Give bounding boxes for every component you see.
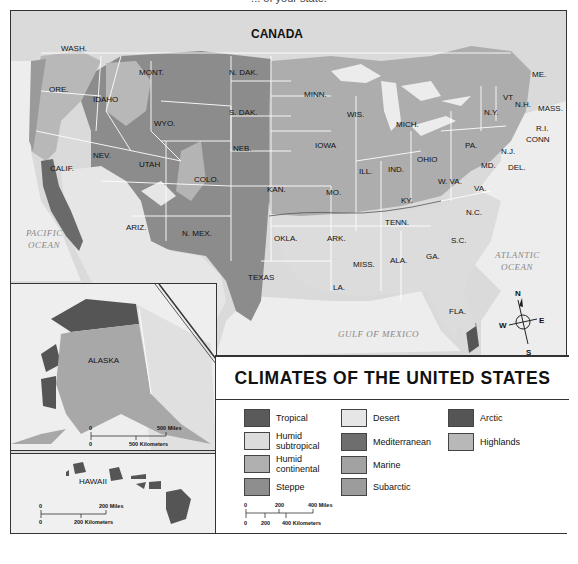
svg-text:MD.: MD. xyxy=(481,161,496,170)
gulf-of-mexico-label: GULF OF MEXICO xyxy=(338,329,419,339)
legend-item-desert: Desert xyxy=(341,409,400,427)
svg-text:0: 0 xyxy=(89,425,92,431)
legend-swatch xyxy=(341,478,367,496)
svg-text:OCEAN: OCEAN xyxy=(28,240,60,250)
svg-text:S. DAK.: S. DAK. xyxy=(229,108,257,117)
svg-text:200: 200 xyxy=(261,520,270,526)
svg-text:MICH.: MICH. xyxy=(396,120,419,129)
legend-swatch xyxy=(448,433,474,451)
svg-text:CONN: CONN xyxy=(526,135,550,144)
hawaii-inset: HAWAII 0 200 Miles 0 200 Kilometers xyxy=(11,453,217,534)
svg-text:N.H.: N.H. xyxy=(515,100,531,109)
svg-text:0: 0 xyxy=(244,502,247,508)
svg-text:400 Kilometers: 400 Kilometers xyxy=(282,520,321,526)
svg-text:W: W xyxy=(499,321,507,330)
svg-text:400 Miles: 400 Miles xyxy=(308,502,332,508)
legend-item-steppe: Steppe xyxy=(244,478,305,496)
svg-text:MISS.: MISS. xyxy=(353,260,375,269)
svg-text:KAN.: KAN. xyxy=(267,185,286,194)
svg-text:R.I.: R.I. xyxy=(536,124,548,133)
svg-text:CALIF.: CALIF. xyxy=(50,164,74,173)
legend-swatch xyxy=(244,409,270,427)
svg-text:OHIO: OHIO xyxy=(417,155,437,164)
svg-text:ALA.: ALA. xyxy=(390,256,407,265)
svg-text:PA.: PA. xyxy=(465,141,477,150)
svg-text:N.Y.: N.Y. xyxy=(484,108,499,117)
svg-text:KY.: KY. xyxy=(401,196,413,205)
svg-text:MO.: MO. xyxy=(326,188,341,197)
svg-text:200 Kilometers: 200 Kilometers xyxy=(74,519,113,525)
svg-text:OCEAN: OCEAN xyxy=(501,262,533,272)
svg-text:TENN.: TENN. xyxy=(385,218,409,227)
svg-text:N.J.: N.J. xyxy=(501,147,515,156)
svg-text:ARK.: ARK. xyxy=(327,234,346,243)
svg-text:OKLA.: OKLA. xyxy=(274,234,298,243)
legend-swatch xyxy=(341,456,367,474)
map-title: CLIMATES OF THE UNITED STATES xyxy=(216,357,569,400)
atlantic-ocean-label: ATLANTIC xyxy=(494,250,540,260)
legend-item-highlands: Highlands xyxy=(448,433,520,451)
svg-text:GA.: GA. xyxy=(426,252,440,261)
legend-item-mediterranean: Mediterranean xyxy=(341,433,431,451)
svg-text:FLA.: FLA. xyxy=(449,307,466,316)
pacific-ocean-label: PACIFIC xyxy=(25,228,63,238)
svg-text:E: E xyxy=(539,316,545,325)
top-caption: ... of your state. xyxy=(0,0,578,4)
svg-text:IDAHO: IDAHO xyxy=(93,95,118,104)
svg-text:N: N xyxy=(515,289,521,298)
svg-text:N. DAK.: N. DAK. xyxy=(229,68,258,77)
svg-text:500 Miles: 500 Miles xyxy=(157,425,181,431)
legend-swatch xyxy=(448,409,474,427)
svg-text:ILL.: ILL. xyxy=(359,167,372,176)
svg-text:NEB.: NEB. xyxy=(233,144,252,153)
svg-text:W. VA.: W. VA. xyxy=(438,177,462,186)
svg-text:0: 0 xyxy=(89,441,92,447)
legend-item-subarctic: Subarctic xyxy=(341,478,411,496)
alaska-label: ALASKA xyxy=(88,356,120,365)
svg-text:NEV.: NEV. xyxy=(93,151,111,160)
svg-text:VA.: VA. xyxy=(474,184,486,193)
svg-text:TEXAS: TEXAS xyxy=(248,273,274,282)
svg-text:WYO.: WYO. xyxy=(154,119,175,128)
legend-item-tropical: Tropical xyxy=(244,409,308,427)
legend-swatch xyxy=(244,455,270,473)
legend-swatch xyxy=(341,409,367,427)
svg-text:ARIZ.: ARIZ. xyxy=(126,223,146,232)
svg-text:0: 0 xyxy=(39,519,42,525)
hawaii-label: HAWAII xyxy=(79,477,107,486)
legend-swatch xyxy=(244,432,270,450)
svg-text:MINN.: MINN. xyxy=(304,90,327,99)
svg-text:COLO.: COLO. xyxy=(194,175,219,184)
svg-text:WIS.: WIS. xyxy=(347,110,364,119)
svg-text:0: 0 xyxy=(39,503,42,509)
legend-item-humid-continental: Humid continental xyxy=(244,454,331,474)
svg-text:N. MEX.: N. MEX. xyxy=(182,229,212,238)
svg-text:DEL.: DEL. xyxy=(508,163,526,172)
svg-text:S.C.: S.C. xyxy=(451,236,467,245)
legend-swatch xyxy=(341,433,367,451)
svg-text:IND.: IND. xyxy=(388,165,404,174)
svg-text:MONT.: MONT. xyxy=(139,68,164,77)
svg-text:200: 200 xyxy=(275,502,284,508)
svg-text:200 Miles: 200 Miles xyxy=(99,503,123,509)
legend-swatch xyxy=(244,478,270,496)
legend-item-humid-subtropical: Humid subtropical xyxy=(244,431,326,451)
svg-text:500 Kilometers: 500 Kilometers xyxy=(129,441,168,447)
scale-bar: 0 200 400 Miles 0 200 400 Kilometers xyxy=(238,500,348,530)
svg-text:ME.: ME. xyxy=(532,70,546,79)
svg-text:ORE.: ORE. xyxy=(49,85,69,94)
alaska-inset: ALASKA 0 500 Miles 0 500 Kilometers xyxy=(11,283,217,451)
svg-text:UTAH: UTAH xyxy=(139,160,160,169)
country-label-canada: CANADA xyxy=(251,27,303,41)
svg-text:WASH.: WASH. xyxy=(61,44,87,53)
svg-text:N.C.: N.C. xyxy=(466,208,482,217)
svg-text:MASS.: MASS. xyxy=(538,104,563,113)
svg-text:LA.: LA. xyxy=(333,283,345,292)
svg-text:VT: VT xyxy=(503,93,513,102)
svg-text:IOWA: IOWA xyxy=(315,141,337,150)
svg-text:0: 0 xyxy=(244,520,247,526)
legend-item-marine: Marine xyxy=(341,456,401,474)
legend-panel: CLIMATES OF THE UNITED STATES Tropical H… xyxy=(215,355,569,533)
legend-item-arctic: Arctic xyxy=(448,409,503,427)
